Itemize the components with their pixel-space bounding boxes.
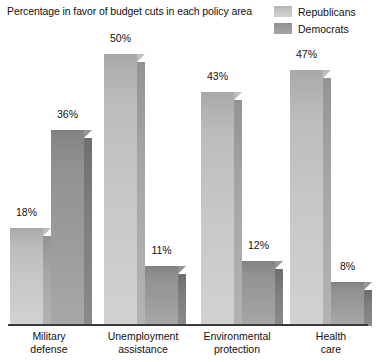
category-label-environmental-protection: Environmental protection <box>190 330 284 356</box>
bar-value-label: 50% <box>104 32 137 44</box>
x-axis-baseline <box>8 324 368 326</box>
bar-side-face <box>84 138 92 326</box>
bar-front-face <box>51 130 84 326</box>
bar-side-face <box>364 290 372 326</box>
bar-front-face <box>331 282 364 326</box>
bar-side-face <box>178 274 186 326</box>
bar-value-label: 47% <box>290 48 323 60</box>
category-line-2: protection <box>190 343 284 356</box>
category-line-2: assistance <box>96 343 190 356</box>
category-line-1: Military <box>2 330 96 343</box>
bar-republicans-unemployment-assistance: 50% <box>104 54 137 326</box>
bar-front-face <box>242 261 275 326</box>
bar-side-face <box>43 236 51 326</box>
bar-front-face <box>290 70 323 326</box>
bar-side-face <box>234 100 242 326</box>
bar-democrats-military-defense: 36% <box>51 130 84 326</box>
category-label-military-defense: Military defense <box>2 330 96 356</box>
bar-side-face <box>275 269 283 326</box>
bar-front-face <box>104 54 137 326</box>
category-label-health-care: Health care <box>284 330 376 356</box>
category-line-1: Unemployment <box>96 330 190 343</box>
bar-value-label: 12% <box>242 239 275 251</box>
bar-value-label: 43% <box>201 70 234 82</box>
category-label-unemployment-assistance: Unemployment assistance <box>96 330 190 356</box>
bar-democrats-unemployment-assistance: 11% <box>145 266 178 326</box>
bar-front-face <box>201 92 234 326</box>
bar-democrats-health-care: 8% <box>331 282 364 326</box>
category-line-1: Environmental <box>190 330 284 343</box>
bar-front-face <box>145 266 178 326</box>
category-line-2: care <box>284 343 376 356</box>
plot-area: 18% 36% 50% 11% <box>0 0 376 326</box>
bar-republicans-environmental-protection: 43% <box>201 92 234 326</box>
x-axis-category-labels: Military defense Unemployment assistance… <box>0 330 376 362</box>
bar-value-label: 36% <box>51 108 84 120</box>
bar-value-label: 11% <box>145 244 178 256</box>
bar-republicans-health-care: 47% <box>290 70 323 326</box>
bar-democrats-environmental-protection: 12% <box>242 261 275 326</box>
bar-side-face <box>323 78 331 326</box>
bar-value-label: 18% <box>10 206 43 218</box>
bar-value-label: 8% <box>331 260 364 272</box>
bar-front-face <box>10 228 43 326</box>
bar-republicans-military-defense: 18% <box>10 228 43 326</box>
category-line-1: Health <box>284 330 376 343</box>
category-line-2: defense <box>2 343 96 356</box>
bar-chart: Percentage in favor of budget cuts in ea… <box>0 0 376 362</box>
bar-side-face <box>137 62 145 326</box>
